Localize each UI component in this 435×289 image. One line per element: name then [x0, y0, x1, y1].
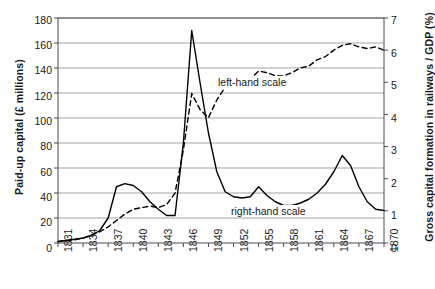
annotation-right-hand-scale: right-hand scale — [229, 205, 308, 217]
annotation-left-hand-scale: left-hand scale — [216, 76, 288, 88]
gridlines — [58, 18, 384, 218]
series-line-paid-up-capital — [58, 31, 384, 242]
axis-ticks — [54, 18, 388, 247]
plot-frame — [58, 18, 384, 243]
